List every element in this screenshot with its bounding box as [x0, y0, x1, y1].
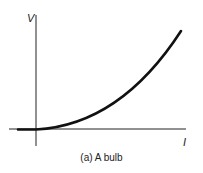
- y-axis-label: V: [27, 13, 34, 24]
- x-axis-label: I: [183, 137, 186, 148]
- chart-canvas: [0, 0, 203, 173]
- figure-caption: (a) A bulb: [0, 152, 203, 163]
- bulb-curve: [18, 31, 181, 130]
